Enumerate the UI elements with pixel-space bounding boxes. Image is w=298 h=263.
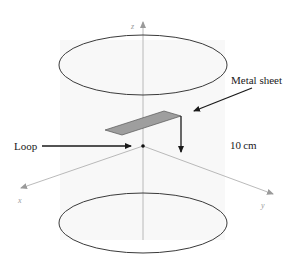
y-axis-label: y (260, 201, 265, 210)
coil-diagram: z x y Metal sheet Loop 10 cm (0, 0, 298, 263)
loop-dot (141, 144, 145, 148)
metal-sheet-label: Metal sheet (231, 74, 282, 86)
loop-label: Loop (14, 140, 38, 152)
x-axis-label: x (17, 196, 22, 205)
background-panel (60, 40, 225, 240)
z-axis-label: z (130, 22, 135, 31)
distance-label: 10 cm (230, 139, 257, 151)
